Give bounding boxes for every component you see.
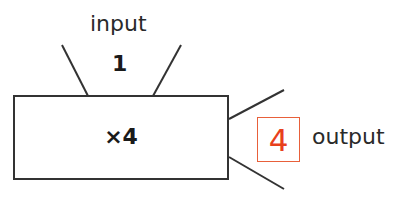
input-label: input (90, 11, 147, 36)
output-funnel-top-line (229, 90, 284, 119)
input-value: 1 (112, 51, 127, 76)
output-value-box: 4 (257, 117, 300, 162)
input-funnel-right-line (153, 45, 181, 96)
input-funnel-left-line (62, 45, 88, 96)
output-label: output (312, 124, 385, 149)
function-machine-box: ×4 (13, 95, 229, 180)
operation-label: ×4 (15, 124, 227, 149)
output-value: 4 (269, 122, 289, 158)
